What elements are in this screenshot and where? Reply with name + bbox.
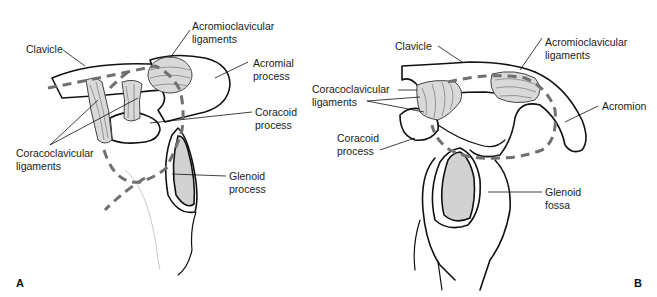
- label-coracoid-a: Coracoidprocess: [255, 106, 297, 132]
- label-acromion-b: Acromion: [602, 100, 646, 113]
- leader-acromioclavicular-b: [520, 38, 542, 70]
- label-acromial-a: Acromialprocess: [253, 57, 294, 83]
- dashed-outline-curve: [104, 150, 170, 182]
- scapula-faint-line: [125, 170, 160, 270]
- scapula-lateral-border: [178, 212, 196, 275]
- panel-letter-a: A: [16, 277, 24, 289]
- coracoclavicular-ligament-b: [417, 81, 462, 120]
- trapezoid-ligament-a: [122, 80, 142, 121]
- leader-coracoid-b: [380, 138, 415, 150]
- label-glenoid-b: Glenoidfossa: [545, 186, 581, 212]
- label-acromioclavicular-b: Acromioclavicularligaments: [545, 36, 627, 62]
- dashed-outline-lower: [105, 178, 145, 210]
- leader-acromioclavicular-a: [170, 30, 190, 58]
- glenoid-fossa-shape: [442, 152, 475, 221]
- label-glenoid-a: Glenoidprocess: [229, 170, 266, 196]
- label-acromioclavicular-a: Acromioclavicularligaments: [192, 20, 274, 46]
- label-clavicle-a: Clavicle: [26, 43, 63, 56]
- label-coracoclavicular-a: Coracoclavicularligaments: [16, 147, 94, 173]
- panel-letter-b: B: [634, 277, 642, 289]
- label-coracoid-b: Coracoidprocess: [337, 132, 379, 158]
- panel-a: Clavicle Acromioclavicularligaments Acro…: [0, 0, 330, 297]
- panel-b: Clavicle Acromioclavicularligaments Cora…: [320, 0, 657, 297]
- label-clavicle-b: Clavicle: [395, 40, 432, 53]
- leader-clavicle-b: [438, 46, 462, 62]
- label-coracoclavicular-b: Coracoclavicularligaments: [312, 83, 390, 109]
- leader-clavicle-a: [63, 50, 85, 66]
